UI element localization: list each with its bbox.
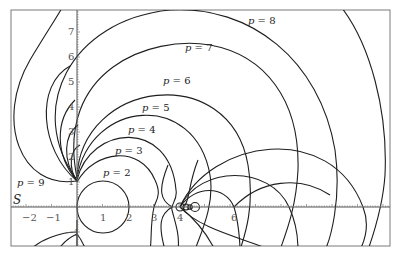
axis-name-s: S [13,193,21,207]
y-tick-label: 3 [68,126,74,137]
y-tick-label: 5 [68,76,74,87]
x-tick-label: 2 [126,212,132,223]
label-p2: p = 2 [103,167,131,178]
label-p8: p = 8 [248,15,276,26]
curve-right-6 [234,183,330,207]
x-tick-label: 1 [100,212,106,223]
label-p9-text: = 9 [23,177,44,188]
y-tick-label: 2 [68,151,74,162]
label-p9: p = 9 [17,177,45,188]
curve-right-5 [180,207,270,250]
x-tick-label: −2 [22,212,37,223]
x-tick-label: 4 [177,212,183,223]
label-p4: p = 4 [128,124,156,135]
label-p5-text: = 5 [148,102,169,113]
label-p4-text: = 4 [134,124,155,135]
label-p8-text: = 8 [254,15,275,26]
curve-outer-right [342,8,385,250]
y-tick-label: −1 [65,227,80,238]
x-tick-label: 6 [231,212,237,223]
label-p3: p = 3 [115,145,143,156]
x-tick-label: 3 [151,212,157,223]
label-p2-text: = 2 [109,167,130,178]
label-p7: p = 7 [185,42,213,53]
y-tick-label: 1 [68,176,74,187]
x-tick-label: −1 [46,212,61,223]
label-p5: p = 5 [142,102,170,113]
label-p7-text: = 7 [191,42,212,53]
y-tick-label: 7 [68,26,74,37]
label-p6: p = 6 [163,75,191,86]
y-tick-label: 6 [68,51,74,62]
label-p6-text: = 6 [169,75,190,86]
y-tick-label: 4 [68,101,74,112]
label-p3-text: = 3 [121,145,142,156]
plot-area: −2 −1 1 2 3 4 6 7 6 5 4 3 2 1 −1 S p = 2… [0,0,398,255]
